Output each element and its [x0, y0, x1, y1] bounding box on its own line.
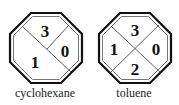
section-left-value: 1 — [31, 53, 40, 72]
hazard-octagon-toluene: 3 0 1 2 toluene — [89, 0, 179, 105]
diagram-caption: cyclohexane — [0, 86, 90, 100]
section-right-value: 0 — [61, 42, 70, 61]
section-right-value: 0 — [152, 40, 161, 59]
section-left-value: 1 — [110, 40, 119, 59]
hazard-octagon-cyclohexane: 3 0 1 cyclohexane — [0, 0, 90, 105]
section-top-value: 3 — [131, 21, 140, 40]
diagram-caption: toluene — [89, 86, 179, 100]
section-bottom-value: 2 — [131, 60, 140, 79]
section-top-value: 3 — [41, 22, 50, 41]
